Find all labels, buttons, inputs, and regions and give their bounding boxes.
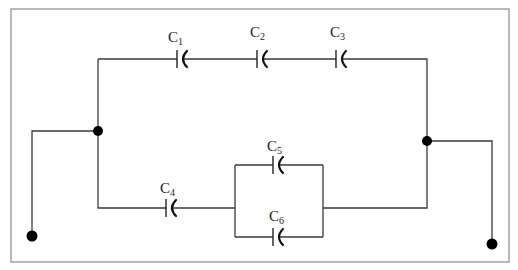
left-terminal-dot [27,231,38,242]
wire-parallel-out [323,141,427,208]
wire-left-terminal-lead [32,131,98,236]
capacitor-label: C1 [168,29,183,47]
capacitor-label: C5 [267,138,282,156]
capacitor-c1: C1 [168,29,187,68]
wire-right-terminal-lead [427,141,492,244]
wire-bottom-left [98,131,166,208]
wires [32,59,492,244]
capacitors: C1C2C3C4C5C6 [160,24,346,246]
right-junction-dot [422,136,432,146]
capacitor-label: C6 [269,208,284,226]
capacitor-c5: C5 [267,138,283,174]
capacitor-label: C3 [330,24,345,42]
capacitor-label: C4 [160,180,175,198]
capacitor-c2: C2 [250,24,267,68]
capacitor-c4: C4 [160,180,176,217]
diagram-frame [11,9,509,262]
capacitor-c6: C6 [269,208,284,246]
capacitor-label: C2 [250,24,265,42]
capacitor-c3: C3 [330,24,346,68]
right-terminal-dot [487,239,498,250]
circuit-diagram: C1C2C3C4C5C6 [0,0,518,270]
left-junction-dot [93,126,103,136]
wire-c3-right [341,59,427,141]
